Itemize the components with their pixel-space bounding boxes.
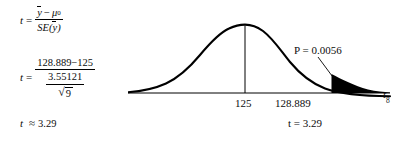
statistics-figure: t = y − μ0 SE(y) t = 128.889−125 3.55121 — [0, 0, 400, 141]
tick-label-center: 125 — [235, 97, 252, 109]
equation-1-relation: = — [26, 14, 35, 26]
p-value-annotation: P = 0.0056 — [294, 44, 342, 56]
equation-3-value: 3.29 — [38, 118, 56, 129]
equation-1-fraction: y − μ0 SE(y) — [35, 6, 62, 34]
equation-1-numerator: y − μ0 — [35, 6, 62, 20]
se-close-paren: ) — [57, 22, 61, 33]
equation-3-relation: ≈ — [26, 117, 38, 129]
equation-2-fraction: 128.889−125 3.55121 √9 — [35, 57, 95, 98]
t-distribution-plot — [128, 0, 400, 112]
equation-2-denominator: 3.55121 √9 — [44, 70, 86, 98]
radical-symbol: √ — [58, 86, 65, 98]
radicand-value: 9 — [65, 87, 73, 99]
standard-error-fraction: 3.55121 √9 — [46, 71, 84, 98]
sample-sd-value: 3.55121 — [46, 71, 84, 84]
equation-line-1: t = y − μ0 SE(y) — [20, 6, 63, 34]
equation-2-numerator: 128.889−125 — [35, 57, 95, 70]
equation-line-2: t = 128.889−125 3.55121 √9 — [20, 57, 95, 98]
y-bar-symbol: y — [37, 6, 42, 18]
mu-subscript: 0 — [57, 10, 61, 18]
se-y-bar-symbol: y — [52, 21, 57, 33]
p-value-leader-line — [318, 57, 341, 88]
sqrt-n-expression: √9 — [55, 85, 75, 98]
critical-t-label: t = 3.29 — [288, 117, 322, 129]
equation-1-denominator: SE(y) — [35, 20, 62, 33]
axis-label-df: 8 — [386, 96, 390, 105]
axis-label-t8: t8 — [383, 88, 390, 103]
minus-sign: − — [42, 7, 52, 18]
p-value-shaded-tail — [332, 74, 391, 93]
equation-line-3: t ≈ 3.29 — [20, 117, 56, 129]
sqrt-icon: √9 — [57, 86, 73, 98]
tick-label-critical: 128.889 — [275, 97, 311, 109]
equation-2-relation: = — [26, 71, 35, 83]
se-label: SE( — [37, 22, 52, 33]
